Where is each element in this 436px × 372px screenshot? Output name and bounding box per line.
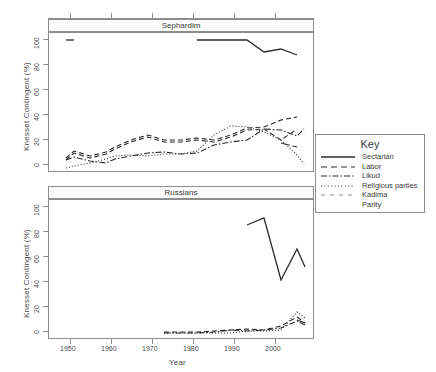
y-tick-sephardim-100: 100 xyxy=(33,37,40,49)
plot-panel-sephardim xyxy=(48,32,314,172)
y-axis-title-sephardim: Knesset Contingent (%) xyxy=(22,62,31,151)
legend-label-kadima: Kadima xyxy=(362,190,387,199)
legend-item-sectarian: Sectarian xyxy=(316,152,424,162)
panel-strip-russians: Russians xyxy=(48,186,314,199)
legend-key-dotted-icon xyxy=(320,181,356,190)
plot-lines-russians xyxy=(49,200,313,338)
legend-item-religious-parties: Religious parties xyxy=(316,181,424,191)
y-tick-sephardim-20: 20 xyxy=(33,138,40,146)
top-axis-ticks-sephardim xyxy=(48,13,314,18)
y-tick-sephardim-80: 80 xyxy=(33,63,40,71)
y-tick-russians-100: 100 xyxy=(33,204,40,216)
legend-item-parity: Parity xyxy=(316,200,424,210)
chart-figure: Sephardim 100 80 60 40 20 0 Knesse xyxy=(0,0,436,372)
x-axis-ticks xyxy=(48,339,314,344)
legend-item-likud: Likud xyxy=(316,171,424,181)
legend-label-parity: Parity xyxy=(362,200,381,209)
plot-lines-sephardim xyxy=(49,33,313,171)
panel-strip-sephardim: Sephardim xyxy=(48,19,314,32)
x-tick-1950: 1950 xyxy=(60,345,76,352)
panel-strip-label-russians: Russians xyxy=(165,188,198,197)
legend: Key Sectarian Labor Likud xyxy=(315,134,425,213)
y-tick-russians-20: 20 xyxy=(33,305,40,313)
y-tick-sephardim-40: 40 xyxy=(33,113,40,121)
legend-title: Key xyxy=(316,138,424,150)
x-tick-1960: 1960 xyxy=(101,345,117,352)
legend-label-sectarian: Sectarian xyxy=(362,152,394,161)
legend-key-dashed-icon xyxy=(320,162,356,171)
legend-item-labor: Labor xyxy=(316,162,424,172)
y-tick-russians-60: 60 xyxy=(33,255,40,263)
legend-key-longdash-icon xyxy=(320,190,356,199)
y-tick-russians-40: 40 xyxy=(33,280,40,288)
y-axis-russians xyxy=(43,199,48,339)
x-axis-title: Year xyxy=(169,358,186,367)
x-tick-2000: 2000 xyxy=(265,345,281,352)
legend-key-dashdot-icon xyxy=(320,171,356,180)
x-tick-1970: 1970 xyxy=(142,345,158,352)
legend-label-religious-parties: Religious parties xyxy=(362,181,417,190)
y-axis-sephardim xyxy=(43,32,48,172)
y-tick-russians-80: 80 xyxy=(33,230,40,238)
legend-key-none-icon xyxy=(320,200,356,209)
legend-label-likud: Likud xyxy=(362,171,380,180)
y-tick-sephardim-60: 60 xyxy=(33,88,40,96)
y-tick-sephardim-0: 0 xyxy=(33,163,40,167)
legend-items: Sectarian Labor Likud Religious parties xyxy=(316,152,424,209)
y-axis-title-russians: Knesset Contingent (%) xyxy=(22,229,31,318)
plot-panel-russians xyxy=(48,199,314,339)
legend-label-labor: Labor xyxy=(362,162,381,171)
y-tick-russians-0: 0 xyxy=(33,330,40,334)
panel-strip-label-sephardim: Sephardim xyxy=(162,21,201,30)
x-tick-1980: 1980 xyxy=(183,345,199,352)
legend-item-kadima: Kadima xyxy=(316,190,424,200)
legend-key-solid-icon xyxy=(320,152,356,161)
x-tick-1990: 1990 xyxy=(224,345,240,352)
